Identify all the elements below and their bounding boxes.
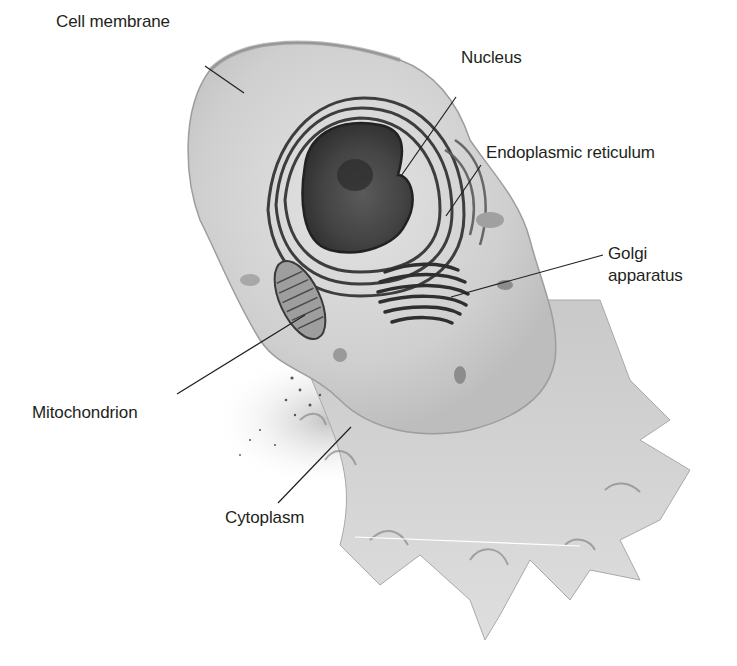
- cell-illustration: [0, 0, 737, 666]
- label-nucleus: Nucleus: [461, 48, 522, 68]
- label-cytoplasm: Cytoplasm: [225, 508, 304, 528]
- label-cell-membrane: Cell membrane: [56, 12, 170, 32]
- label-endoplasmic-reticulum: Endoplasmic reticulum: [486, 143, 655, 163]
- cell-diagram: Cell membrane Nucleus Endoplasmic reticu…: [0, 0, 737, 666]
- label-mitochondrion: Mitochondrion: [32, 403, 137, 423]
- label-golgi-line1: Golgi: [608, 244, 647, 264]
- label-golgi-line2: apparatus: [608, 266, 683, 286]
- nucleolus-shape: [337, 159, 373, 191]
